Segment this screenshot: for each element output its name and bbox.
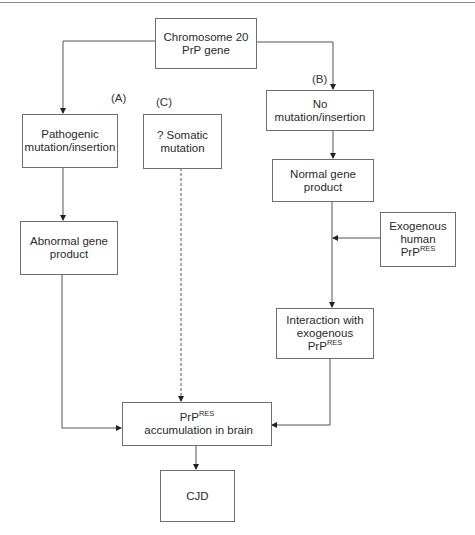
node-text: Abnormal gene [30,235,108,247]
path-label-c: (C) [156,96,172,108]
node-chromosome-20-prp-gene: Chromosome 20 PrP gene [155,18,257,69]
node-normal-gene-product: Normal gene product [272,159,374,202]
node-cjd: CJD [160,470,235,522]
node-text: Interaction with [286,314,363,326]
node-prpres-accumulation: PrPRES accumulation in brain [122,402,272,446]
superscript: RES [199,409,214,418]
node-interaction-exogenous: Interaction with exogenous PrPRES [276,308,374,359]
path-label-a: (A) [111,92,126,104]
node-text: Pathogenic [41,128,99,140]
node-text: CJD [186,490,208,503]
path-label-b: (B) [312,73,327,85]
node-abnormal-gene-product: Abnormal gene product [20,221,118,275]
superscript: RES [420,244,435,253]
node-text: Chromosome 20 [163,31,248,43]
node-text: mutation/insertion [25,141,116,153]
node-text: accumulation in brain [141,424,253,436]
node-pathogenic-mutation: Pathogenic mutation/insertion [22,114,118,168]
node-text: exogenous PrP [297,327,353,352]
node-text: mutation [160,142,204,154]
node-exogenous-human-prpres: Exogenous human PrPRES [380,212,456,267]
node-no-mutation: No mutation/insertion [266,90,374,131]
node-text: No mutation/insertion [270,98,370,124]
node-text: Normal gene product [276,168,370,194]
superscript: RES [327,338,342,347]
node-text: ? Somatic [157,129,208,141]
node-text: product [50,248,88,260]
node-text: PrP [180,411,199,423]
node-somatic-mutation: ? Somatic mutation [143,114,222,169]
node-text: Exogenous [389,220,447,232]
node-text: PrP gene [182,44,230,56]
